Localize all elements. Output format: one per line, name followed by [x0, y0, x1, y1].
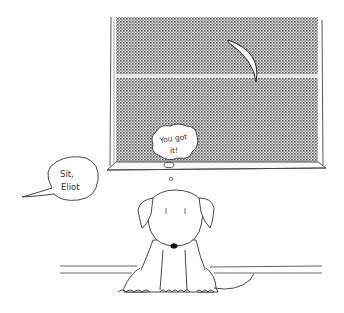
thought-dot-large: [164, 162, 174, 167]
speech-text-line2: Eliot: [61, 182, 80, 192]
cartoon-scene: You got it! Sit, Eliot: [0, 0, 344, 313]
speech-text-line1: Sit,: [60, 169, 74, 179]
speech-bubble: Sit, Eliot: [22, 157, 98, 201]
puppy: [118, 190, 254, 292]
thought-bubble: You got it!: [152, 124, 198, 181]
window-pane: [116, 17, 318, 163]
window-mullion: [116, 74, 318, 78]
window: [107, 17, 326, 170]
thought-text-line2: it!: [170, 146, 178, 155]
puppy-nose: [171, 244, 177, 248]
thought-dot-small: [169, 178, 173, 181]
